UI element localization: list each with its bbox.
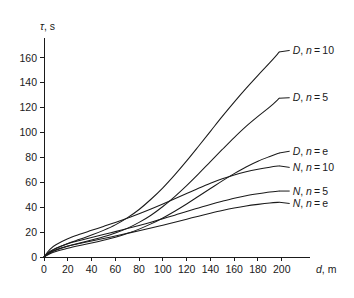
x-axis-ticks: 020406080100120140160180200	[41, 257, 291, 275]
curve-label: D, n = 5	[293, 91, 329, 103]
x-tick-label: 60	[109, 263, 121, 275]
y-tick-label: 80	[25, 151, 37, 163]
y-tick-label: 160	[19, 52, 37, 64]
x-axis-title: d, m	[316, 263, 337, 275]
data-curve	[44, 52, 279, 257]
x-tick-label: 200	[273, 263, 291, 275]
y-axis-ticks: 020406080100120140160	[19, 52, 44, 263]
chart-figure: 020406080100120140160 020406080100120140…	[0, 0, 354, 298]
chart-plot-area: 020406080100120140160 020406080100120140…	[0, 0, 354, 298]
curve-label: N, n = 5	[293, 185, 329, 197]
curve-label: N, n = e	[293, 197, 329, 209]
curve-label: D, n = e	[293, 145, 329, 157]
x-tick-label: 80	[133, 263, 145, 275]
x-tick-label: 160	[225, 263, 243, 275]
y-tick-label: 40	[25, 201, 37, 213]
curve-label-leader	[279, 166, 289, 167]
data-curve	[44, 202, 279, 257]
curve-labels: D, n = 10D, n = 5D, n = eN, n = 10N, n =…	[279, 44, 334, 209]
y-tick-label: 140	[19, 76, 37, 88]
x-tick-label: 20	[62, 263, 74, 275]
y-axis-title: τ, s	[40, 20, 55, 32]
data-curve	[44, 191, 279, 257]
axes-group	[44, 38, 310, 257]
curve-label: N, n = 10	[293, 161, 334, 173]
x-tick-label: 120	[178, 263, 196, 275]
curve-label-leader	[279, 202, 289, 203]
x-tick-label: 180	[249, 263, 267, 275]
x-tick-label: 100	[154, 263, 172, 275]
data-curve	[44, 98, 279, 257]
curve-label: D, n = 10	[293, 44, 334, 56]
x-tick-label: 40	[86, 263, 98, 275]
curve-label-leader	[279, 151, 289, 153]
x-tick-label: 0	[41, 263, 47, 275]
y-tick-label: 120	[19, 101, 37, 113]
y-tick-label: 100	[19, 126, 37, 138]
data-curves	[44, 52, 279, 257]
y-tick-label: 60	[25, 176, 37, 188]
y-tick-label: 0	[31, 251, 37, 263]
x-tick-label: 140	[202, 263, 220, 275]
curve-label-leader	[279, 50, 289, 51]
y-tick-label: 20	[25, 226, 37, 238]
